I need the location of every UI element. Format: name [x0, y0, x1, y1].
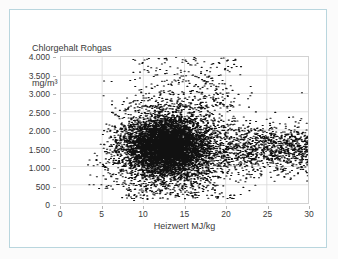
- x-tick-label: 5: [99, 209, 104, 219]
- plot-wrapper: [60, 56, 309, 204]
- y-tick-label: 1.000: [29, 163, 50, 173]
- x-tick-label: 0: [58, 209, 63, 219]
- y-tick-label: 2.500: [29, 108, 50, 118]
- chart-card: Chlorgehalt Rohgas mg/m³ 05001.0001.5002…: [9, 9, 327, 248]
- x-tick-mark: [102, 206, 103, 209]
- y-tick-label: 0: [45, 200, 50, 210]
- y-tick-label: 500: [36, 182, 50, 192]
- x-tick-mark: [268, 206, 269, 209]
- y-tick-mark: [53, 57, 56, 58]
- scatter-points: [61, 57, 308, 203]
- y-tick-mark: [53, 150, 56, 151]
- x-tick-label: 15: [180, 209, 189, 219]
- y-axis-tick-labels: 05001.0001.5002.0002.5003.0003.5004.000: [10, 56, 56, 204]
- y-tick-label: 2.000: [29, 126, 50, 136]
- x-axis-title: Heizwert MJ/kg: [60, 221, 309, 231]
- x-axis-tick-labels: 051015202530: [60, 206, 309, 220]
- x-tick-mark: [143, 206, 144, 209]
- plot-area: [60, 56, 309, 204]
- y-tick-label: 3.500: [29, 71, 50, 81]
- y-tick-label: 3.000: [29, 89, 50, 99]
- x-tick-label: 25: [263, 209, 272, 219]
- y-tick-mark: [53, 168, 56, 169]
- x-tick-mark: [309, 206, 310, 209]
- y-tick-mark: [53, 131, 56, 132]
- y-tick-label: 1.500: [29, 145, 50, 155]
- x-tick-mark: [60, 206, 61, 209]
- x-tick-mark: [226, 206, 227, 209]
- y-tick-mark: [53, 113, 56, 114]
- x-tick-mark: [185, 206, 186, 209]
- y-tick-label: 4.000: [29, 52, 50, 62]
- y-tick-mark: [53, 94, 56, 95]
- x-tick-label: 20: [221, 209, 230, 219]
- y-tick-mark: [53, 187, 56, 188]
- y-tick-mark: [53, 205, 56, 206]
- x-tick-label: 10: [138, 209, 147, 219]
- y-tick-mark: [53, 76, 56, 77]
- x-tick-label: 30: [304, 209, 313, 219]
